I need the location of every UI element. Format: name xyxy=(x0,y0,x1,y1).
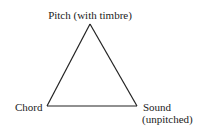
vertex-label-chord: Chord xyxy=(15,101,43,113)
vertex-sublabel-unpitched: (unpitched) xyxy=(142,113,193,125)
edge-top-right xyxy=(90,24,137,106)
edge-top-left xyxy=(47,24,90,106)
vertex-label-sound: Sound xyxy=(143,101,171,113)
vertex-label-pitch: Pitch (with timbre) xyxy=(48,9,132,21)
